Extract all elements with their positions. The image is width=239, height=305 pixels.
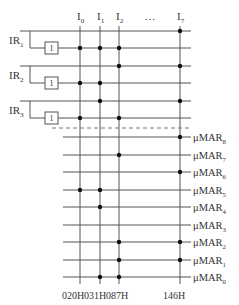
connection-dot xyxy=(178,64,182,68)
connection-dot xyxy=(117,240,121,244)
connection-dot xyxy=(117,64,121,68)
output-label-umar3: μMAR3 xyxy=(193,220,227,233)
not-gate-label: 1 xyxy=(50,114,54,123)
column-header: I0 xyxy=(77,10,85,25)
connection-dot xyxy=(178,99,182,103)
connection-dot xyxy=(78,188,82,192)
ir-label: IR1 xyxy=(9,34,24,49)
output-label-umar5: μMAR5 xyxy=(193,185,227,198)
output-label-umar2: μMAR2 xyxy=(193,237,227,250)
connection-dot xyxy=(178,135,182,139)
output-label-umar7: μMAR7 xyxy=(193,150,227,163)
connection-dot xyxy=(117,258,121,262)
column-header: I1 xyxy=(97,10,105,25)
connection-dot xyxy=(117,153,121,157)
not-gate-label: 1 xyxy=(50,79,54,88)
ir-label: IR3 xyxy=(9,104,24,119)
output-label-umar6: μMAR6 xyxy=(193,167,227,180)
address-label: 146H xyxy=(163,290,185,301)
connection-dot xyxy=(78,116,82,120)
output-label-umar1: μMAR1 xyxy=(193,255,226,268)
connection-dot xyxy=(98,205,102,209)
connection-dot xyxy=(117,46,121,50)
address-label: 020H xyxy=(62,290,84,301)
connection-dot xyxy=(178,258,182,262)
connection-dot xyxy=(98,81,102,85)
ellipsis: … xyxy=(145,10,156,22)
connection-dot xyxy=(117,275,121,279)
decoder-diagram: I0I1I2I7…020H031H087H146H1IR11IR21IR3μMA… xyxy=(0,0,239,305)
ir-label: IR2 xyxy=(9,69,24,84)
output-label-umar8: μMAR8 xyxy=(193,132,227,145)
connection-dot xyxy=(98,275,102,279)
connection-dot xyxy=(78,46,82,50)
column-header: I2 xyxy=(116,10,124,25)
output-label-umar0: μMAR0 xyxy=(193,272,227,285)
output-label-umar4: μMAR4 xyxy=(193,202,227,215)
address-label: 031H xyxy=(84,290,106,301)
connection-dot xyxy=(78,81,82,85)
wiring xyxy=(20,26,191,284)
connection-dot xyxy=(98,46,102,50)
column-header: I7 xyxy=(177,10,185,25)
connection-dot xyxy=(178,170,182,174)
address-label: 087H xyxy=(106,290,128,301)
connection-dot xyxy=(178,29,182,33)
connection-dot xyxy=(178,240,182,244)
connection-dot xyxy=(117,116,121,120)
connection-dot xyxy=(98,188,102,192)
connection-dot xyxy=(98,99,102,103)
not-gate-label: 1 xyxy=(50,44,54,53)
